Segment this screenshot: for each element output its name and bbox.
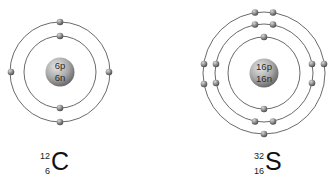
- carbon-neutrons-label: 6n: [55, 72, 66, 83]
- carbon-atom: 6p 6n: [8, 19, 113, 126]
- electron: [261, 106, 268, 113]
- electron: [309, 80, 316, 87]
- electron: [213, 80, 220, 87]
- sulfur-atomic-number: 16: [250, 166, 264, 176]
- carbon-symbol: C: [51, 149, 69, 174]
- sulfur-neutrons-label: 16n: [256, 73, 272, 84]
- electron: [252, 21, 259, 28]
- electron: [57, 105, 64, 112]
- electron: [309, 61, 316, 68]
- electron: [213, 61, 220, 68]
- electron: [57, 19, 64, 26]
- carbon-atomic-number: 6: [36, 166, 50, 176]
- sulfur-symbol: S: [265, 149, 282, 174]
- electron: [57, 119, 64, 126]
- electron: [106, 69, 113, 76]
- sulfur-atom: 16p 16n: [201, 9, 328, 137]
- electron: [57, 33, 64, 40]
- electron: [252, 118, 259, 125]
- electron: [252, 9, 259, 16]
- electron: [261, 34, 268, 41]
- electron: [270, 9, 277, 16]
- electron: [321, 61, 328, 68]
- electron: [8, 69, 15, 76]
- electron: [201, 61, 208, 68]
- electron: [270, 118, 277, 125]
- sulfur-mass-number: 32: [250, 151, 264, 161]
- carbon-protons-label: 6p: [55, 60, 66, 71]
- carbon-mass-number: 12: [36, 151, 50, 161]
- sulfur-protons-label: 16p: [256, 61, 272, 72]
- electron: [270, 21, 277, 28]
- electron: [201, 81, 208, 88]
- electron: [261, 131, 268, 138]
